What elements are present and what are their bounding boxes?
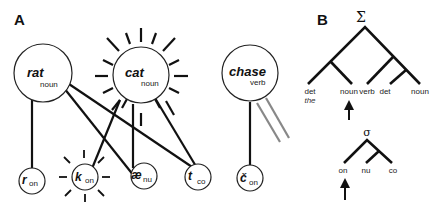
syntax-leaf-verb: verb — [359, 87, 375, 96]
syntax-leaf-det-2: det — [379, 87, 391, 96]
svg-text:rat: rat — [27, 65, 44, 80]
panel-a-label: A — [14, 11, 25, 28]
phoneme-node-k: k on — [72, 164, 98, 190]
word-node-cat: cat noun — [113, 47, 169, 103]
svg-text:chase: chase — [229, 64, 266, 79]
syllable-leaf-nu: nu — [362, 166, 371, 175]
svg-text:č: č — [240, 171, 247, 185]
svg-text:noun: noun — [40, 80, 58, 89]
syllable-leaf-on: on — [339, 166, 348, 175]
arrow-up-icon — [344, 100, 354, 120]
syntax-root-sigma: Σ — [356, 9, 366, 25]
syntax-leaf-noun: noun — [340, 87, 358, 96]
syntax-leaf-example: the — [304, 96, 316, 105]
word-node-rat: rat noun — [14, 44, 72, 102]
phoneme-node-ch: č on — [237, 165, 263, 191]
phoneme-node-ae: æ nu — [131, 163, 157, 189]
svg-text:æ: æ — [131, 168, 142, 182]
phoneme-node-t: t co — [185, 164, 211, 190]
syntax-leaf-det: det — [304, 87, 316, 96]
diagram-canvas: A rat noun cat n — [0, 0, 439, 206]
arrow-up-icon — [340, 178, 350, 200]
svg-text:on: on — [249, 178, 258, 187]
syllable-root-sigma: σ — [363, 126, 371, 139]
svg-text:on: on — [29, 179, 38, 188]
panel-b-label: B — [317, 11, 328, 28]
syllable-leaf-co: co — [389, 166, 398, 175]
svg-text:co: co — [197, 177, 206, 186]
word-node-chase: chase verb — [222, 45, 278, 101]
svg-text:on: on — [85, 176, 94, 185]
syllable-tree: σ on nu co — [339, 126, 398, 200]
phoneme-node-r: r on — [19, 168, 45, 194]
svg-text:nu: nu — [143, 175, 152, 184]
svg-text:noun: noun — [141, 79, 159, 88]
svg-text:cat: cat — [125, 65, 144, 80]
syntax-leaf-noun-2: noun — [411, 87, 429, 96]
svg-text:verb: verb — [250, 78, 266, 87]
